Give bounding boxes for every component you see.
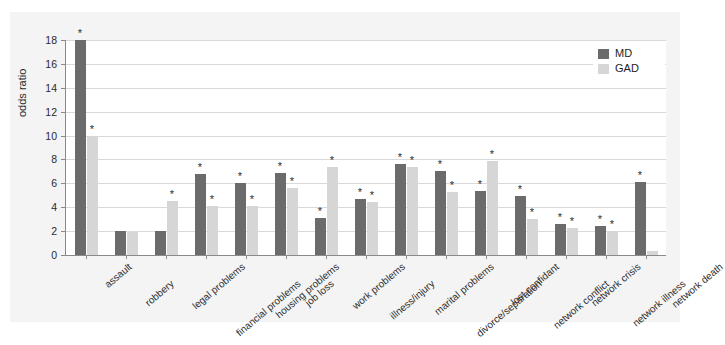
legend-item[interactable]: MD <box>598 46 660 61</box>
x-axis-label: marital problems <box>432 261 496 317</box>
bar-group: ** <box>315 40 338 255</box>
bar-gad[interactable] <box>487 161 498 255</box>
bar-gad[interactable] <box>127 232 138 255</box>
bar-md[interactable] <box>555 224 566 255</box>
significance-marker: * <box>407 155 418 166</box>
significance-marker: * <box>287 176 298 187</box>
x-axis-label: network conflict <box>551 278 611 331</box>
y-tick-mark <box>61 207 65 208</box>
significance-marker: * <box>167 189 178 200</box>
legend-label: MD <box>615 48 632 59</box>
y-tick-mark <box>61 136 65 137</box>
bar-group: ** <box>355 40 378 255</box>
y-tick-label: 0 <box>35 250 57 261</box>
y-tick-mark <box>61 255 65 256</box>
y-tick-mark <box>61 64 65 65</box>
significance-marker: * <box>355 187 366 198</box>
bar-gad[interactable] <box>207 206 218 255</box>
y-tick-label: 8 <box>35 154 57 165</box>
x-tick-mark <box>246 255 247 259</box>
bar-md[interactable] <box>115 231 126 255</box>
bar-group: * <box>155 40 178 255</box>
significance-marker: * <box>87 124 98 135</box>
bar-group: ** <box>275 40 298 255</box>
significance-marker: * <box>567 216 578 227</box>
bar-md[interactable] <box>635 182 646 255</box>
significance-marker: * <box>487 149 498 160</box>
y-tick-mark <box>61 40 65 41</box>
bar-md[interactable] <box>355 199 366 255</box>
bar-group: ** <box>555 40 578 255</box>
bar-gad[interactable] <box>527 219 538 255</box>
x-axis-label: illness/injury <box>388 278 437 321</box>
y-tick-label: 6 <box>35 178 57 189</box>
x-tick-mark <box>286 255 287 259</box>
y-tick-label: 10 <box>35 131 57 142</box>
significance-marker: * <box>527 207 538 218</box>
bar-gad[interactable] <box>167 201 178 255</box>
bar-md[interactable] <box>75 40 86 255</box>
significance-marker: * <box>595 214 606 225</box>
significance-marker: * <box>367 190 378 201</box>
bar-md[interactable] <box>155 231 166 255</box>
bar-md[interactable] <box>475 191 486 256</box>
bar-md[interactable] <box>275 173 286 255</box>
significance-marker: * <box>75 28 86 39</box>
bar-md[interactable] <box>195 174 206 255</box>
significance-marker: * <box>327 155 338 166</box>
y-tick-mark <box>61 159 65 160</box>
x-tick-mark <box>126 255 127 259</box>
bar-gad[interactable] <box>87 136 98 255</box>
x-tick-mark <box>206 255 207 259</box>
bar-gad[interactable] <box>447 192 458 255</box>
significance-marker: * <box>515 184 526 195</box>
x-axis-label: robbery <box>143 278 176 308</box>
y-tick-label: 16 <box>35 59 57 70</box>
bar-gad[interactable] <box>327 167 338 255</box>
x-tick-mark <box>406 255 407 259</box>
bar-md[interactable] <box>395 164 406 255</box>
x-tick-mark <box>486 255 487 259</box>
significance-marker: * <box>555 212 566 223</box>
bar-md[interactable] <box>315 218 326 255</box>
x-tick-mark <box>526 255 527 259</box>
bar-group: ** <box>515 40 538 255</box>
bar-group: ** <box>195 40 218 255</box>
y-tick-mark <box>61 183 65 184</box>
bar-md[interactable] <box>435 171 446 255</box>
y-tick-mark <box>61 231 65 232</box>
significance-marker: * <box>315 206 326 217</box>
bar-gad[interactable] <box>607 231 618 255</box>
x-tick-mark <box>166 255 167 259</box>
y-tick-label: 18 <box>35 35 57 46</box>
x-tick-mark <box>646 255 647 259</box>
x-tick-mark <box>446 255 447 259</box>
legend-item[interactable]: GAD <box>598 61 660 76</box>
bar-group: ** <box>75 40 98 255</box>
bar-gad[interactable] <box>407 167 418 255</box>
bar-md[interactable] <box>235 183 246 255</box>
significance-marker: * <box>195 162 206 173</box>
y-tick-mark <box>61 88 65 89</box>
bar-md[interactable] <box>515 196 526 255</box>
bar-gad[interactable] <box>567 228 578 255</box>
x-tick-mark <box>326 255 327 259</box>
bar-group: ** <box>235 40 258 255</box>
chart-panel: odds ratio ************************** 02… <box>10 12 680 322</box>
significance-marker: * <box>247 194 258 205</box>
bar-group <box>115 40 138 255</box>
bar-gad[interactable] <box>287 188 298 255</box>
bar-group: ** <box>395 40 418 255</box>
y-tick-mark <box>61 112 65 113</box>
bar-gad[interactable] <box>367 202 378 255</box>
y-axis-title: odds ratio <box>16 69 28 117</box>
y-tick-label: 4 <box>35 202 57 213</box>
bar-gad[interactable] <box>247 206 258 255</box>
bar-group: ** <box>435 40 458 255</box>
bar-md[interactable] <box>595 226 606 255</box>
significance-marker: * <box>607 219 618 230</box>
significance-marker: * <box>435 159 446 170</box>
bar-gad[interactable] <box>647 251 658 255</box>
legend-swatch <box>598 64 609 74</box>
legend-swatch <box>598 49 609 59</box>
